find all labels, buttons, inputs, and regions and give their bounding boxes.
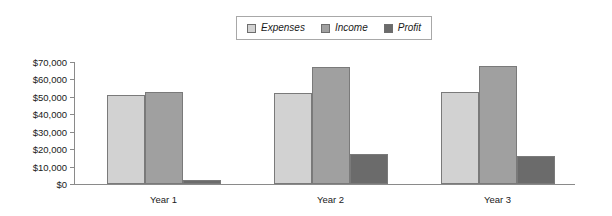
y-axis-tick-label: $20,000 <box>33 144 67 155</box>
y-axis-tick-mark <box>70 62 74 63</box>
y-axis-tick-label: $0 <box>56 179 67 190</box>
y-axis-line <box>74 62 75 184</box>
legend-swatch-icon <box>247 24 256 33</box>
y-axis-tick-label: $70,000 <box>33 57 67 68</box>
x-axis-category-label: Year 3 <box>484 194 511 205</box>
legend-swatch-icon <box>321 24 330 33</box>
bar-income-year-1 <box>145 92 183 184</box>
y-axis-tick-mark <box>70 97 74 98</box>
legend-item-label: Expenses <box>261 23 305 33</box>
bar-expenses-year-2 <box>274 93 312 184</box>
y-axis-tick-label: $10,000 <box>33 161 67 172</box>
plot-area: $70,000$60,000$50,000$40,000$30,000$20,0… <box>74 62 575 184</box>
y-axis-tick-label: $30,000 <box>33 126 67 137</box>
y-axis-tick-label: $60,000 <box>33 74 67 85</box>
x-axis-category-label: Year 2 <box>317 194 344 205</box>
bar-expenses-year-3 <box>441 92 479 184</box>
y-axis-tick-label: $40,000 <box>33 109 67 120</box>
bar-profit-year-3 <box>517 156 555 184</box>
x-axis-category-label: Year 1 <box>150 194 177 205</box>
y-axis-tick-mark <box>70 132 74 133</box>
legend-item-income[interactable]: Income <box>321 23 368 33</box>
legend-item-label: Income <box>335 23 368 33</box>
bar-expenses-year-1 <box>107 95 145 184</box>
bar-income-year-2 <box>312 67 350 184</box>
y-axis-tick-mark <box>70 114 74 115</box>
bar-profit-year-1 <box>183 180 221 184</box>
chart-legend: ExpensesIncomeProfit <box>236 16 432 40</box>
legend-item-profit[interactable]: Profit <box>384 23 421 33</box>
bar-chart: ExpensesIncomeProfit $70,000$60,000$50,0… <box>0 0 612 216</box>
y-axis-tick-mark <box>70 184 74 185</box>
legend-item-label: Profit <box>398 23 421 33</box>
y-axis-tick-mark <box>70 79 74 80</box>
legend-swatch-icon <box>384 24 393 33</box>
y-axis-tick-mark <box>70 167 74 168</box>
bar-profit-year-2 <box>350 154 388 184</box>
y-axis-tick-label: $50,000 <box>33 91 67 102</box>
y-axis-tick-mark <box>70 149 74 150</box>
x-axis-line <box>74 184 575 185</box>
bar-income-year-3 <box>479 66 517 185</box>
legend-item-expenses[interactable]: Expenses <box>247 23 305 33</box>
